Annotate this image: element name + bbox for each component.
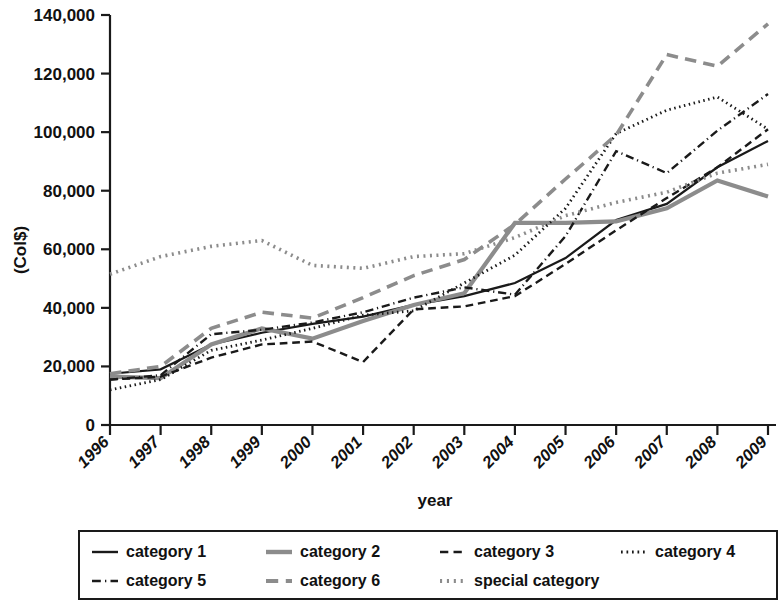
series-line-category-6 [110,24,768,374]
legend-label: category 3 [474,543,554,560]
chart-legend: category 1category 2category 3category 4… [79,531,777,599]
y-tick-label: 80,000 [43,182,95,201]
series-line-category-2 [110,180,768,378]
x-axis-title: year [418,491,453,510]
chart-canvas: 020,00040,00060,00080,000100,000120,0001… [0,0,779,601]
legend-label: category 1 [126,543,206,560]
legend-item-category-2[interactable]: category 2 [266,543,380,560]
y-tick-label: 20,000 [43,357,95,376]
legend-item-category-4[interactable]: category 4 [621,543,735,560]
y-axis-title: (Col$) [11,226,30,274]
series-lines [110,24,768,390]
legend-item-category-3[interactable]: category 3 [440,543,554,560]
x-tick-label: 2008 [680,432,720,472]
legend-item-special-category[interactable]: special category [440,572,600,589]
x-tick-label: 1997 [124,432,163,471]
legend-item-category-5[interactable]: category 5 [92,572,206,589]
y-tick-label: 140,000 [34,6,95,25]
x-tick-label: 2006 [579,432,619,472]
legend-item-category-6[interactable]: category 6 [266,572,380,589]
y-tick-label: 0 [86,416,95,435]
series-line-category-5 [110,94,768,380]
x-axis: 1996199719981999200020012002200320042005… [73,425,776,472]
x-tick-label: 2005 [528,432,568,472]
x-tick-label: 2004 [478,432,517,471]
legend-label: special category [474,572,600,589]
line-chart: 020,00040,00060,00080,000100,000120,0001… [0,0,779,601]
y-tick-label: 60,000 [43,240,95,259]
series-line-special-category [110,164,768,274]
x-tick-label: 1996 [73,432,112,471]
series-line-category-3 [110,129,768,379]
legend-item-category-1[interactable]: category 1 [92,543,206,560]
series-line-category-1 [110,141,768,374]
x-tick-label: 2009 [731,432,771,472]
x-tick-label: 2002 [376,432,415,471]
y-axis: 020,00040,00060,00080,000100,000120,0001… [34,6,110,435]
y-tick-label: 100,000 [34,123,95,142]
y-tick-label: 120,000 [34,65,95,84]
x-tick-label: 1999 [225,432,264,471]
x-tick-label: 2001 [326,432,365,471]
legend-label: category 4 [655,543,735,560]
y-tick-label: 40,000 [43,299,95,318]
x-tick-label: 2007 [629,432,669,472]
legend-label: category 2 [300,543,380,560]
x-tick-label: 2000 [275,432,315,472]
x-tick-label: 1998 [175,432,214,471]
legend-label: category 6 [300,572,380,589]
legend-label: category 5 [126,572,206,589]
x-tick-label: 2003 [427,432,466,471]
